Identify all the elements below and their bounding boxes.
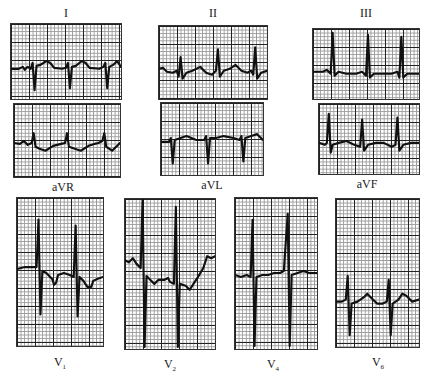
- ecg-trace-V2: [125, 199, 215, 349]
- lead-label-aVR: aVR: [33, 180, 93, 195]
- lead-label-aVL: aVL: [182, 178, 242, 193]
- ecg-trace-I: [11, 24, 121, 99]
- ecg-strip-lead-I: [10, 23, 122, 100]
- ecg-trace-V1: [17, 198, 103, 346]
- ecg-strip-lead-aVR: [13, 103, 121, 178]
- ecg-trace-aVF: [319, 104, 419, 174]
- lead-label-V1: V1: [30, 355, 90, 371]
- ecg-strip-lead-V4: [234, 197, 318, 350]
- lead-label-V2: V2: [140, 357, 200, 373]
- ecg-trace-V6: [336, 199, 419, 347]
- ecg-strip-lead-aVL: [160, 102, 264, 176]
- ecg-strip-lead-aVF: [318, 103, 420, 175]
- lead-label-V4: V4: [243, 357, 303, 373]
- ecg-strip-lead-V2: [124, 198, 216, 350]
- ecg-strip-lead-V1: [16, 197, 104, 347]
- lead-label-I: I: [36, 6, 96, 21]
- ecg-strip-lead-III: [312, 28, 420, 100]
- ecg-trace-III: [313, 29, 419, 99]
- lead-label-aVF: aVF: [337, 177, 397, 192]
- ecg-trace-V4: [235, 198, 317, 349]
- lead-label-V6: V6: [348, 355, 408, 371]
- ecg-trace-II: [159, 26, 267, 99]
- ecg-trace-aVL: [161, 103, 263, 175]
- ecg-trace-aVR: [14, 104, 120, 177]
- ecg-strip-lead-V6: [335, 198, 420, 348]
- lead-label-III: III: [336, 6, 396, 21]
- lead-label-II: II: [183, 6, 243, 21]
- ecg-strip-lead-II: [158, 25, 268, 100]
